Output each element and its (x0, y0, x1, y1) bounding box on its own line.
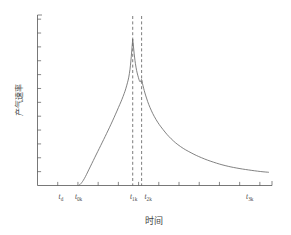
y-axis-title: 产气速率 (14, 84, 24, 116)
y-axis-ticks (38, 19, 42, 171)
x-tick-label-t0k: t0k (75, 192, 83, 202)
axes-group (38, 15, 273, 186)
x-axis-tick-labels: tdt0kt1kt2kt3k (59, 192, 254, 202)
chart-plot-area: tdt0kt1kt2kt3k 时间 产气速率 (0, 0, 291, 235)
marker-lines-group (133, 16, 142, 186)
gas-production-rate-curve (79, 39, 269, 185)
x-tick-label-t1k: t1k (130, 192, 138, 202)
x-axis-title: 时间 (145, 215, 163, 226)
x-axis-ticks (58, 182, 260, 186)
x-tick-label-t2k: t2k (145, 192, 153, 202)
chart-figure: tdt0kt1kt2kt3k 时间 产气速率 (0, 0, 291, 235)
x-tick-label-td: td (59, 192, 64, 202)
x-tick-label-t3k: t3k (246, 192, 254, 202)
